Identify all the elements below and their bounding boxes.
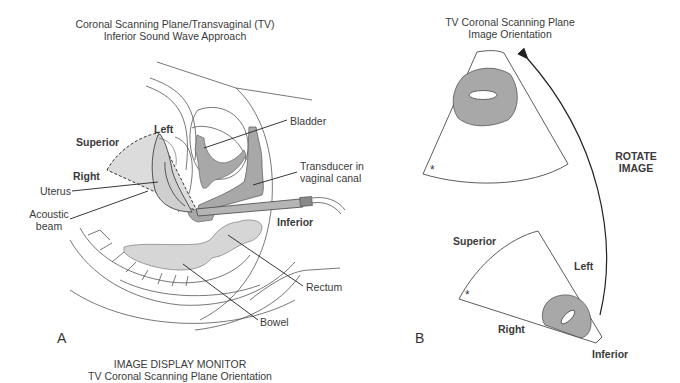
label-uterus: Uterus bbox=[40, 185, 71, 197]
panel-a-title-line2: Inferior Sound Wave Approach bbox=[70, 30, 280, 42]
panel-b-title-line1: TV Coronal Scanning Plane bbox=[440, 16, 580, 28]
panel-b-title-line2: Image Orientation bbox=[440, 28, 580, 40]
panel-a-title: Coronal Scanning Plane/Transvaginal (TV)… bbox=[70, 18, 280, 42]
label-bladder: Bladder bbox=[290, 115, 326, 127]
label-superior-a: Superior bbox=[76, 136, 119, 148]
star-marker-top: * bbox=[430, 164, 435, 176]
rotated-sector-image bbox=[459, 231, 602, 343]
bowel-rectum-shape bbox=[124, 220, 262, 270]
label-inferior-a: Inferior bbox=[277, 216, 313, 228]
label-rectum: Rectum bbox=[306, 281, 342, 293]
label-left-a: Left bbox=[154, 123, 173, 135]
label-acoustic-line1: Acoustic bbox=[28, 208, 70, 220]
diagram-artwork bbox=[0, 0, 680, 383]
label-acoustic-line2: beam bbox=[28, 220, 70, 232]
panel-letter-a: A bbox=[57, 332, 66, 344]
label-transducer: Transducer in vaginal canal bbox=[300, 160, 364, 184]
label-acoustic-beam: Acoustic beam bbox=[28, 208, 70, 232]
label-superior-b: Superior bbox=[453, 235, 496, 247]
rotate-line2: IMAGE bbox=[612, 162, 660, 174]
bladder-shape bbox=[195, 135, 246, 188]
label-bowel: Bowel bbox=[260, 316, 289, 328]
star-marker-bottom: * bbox=[465, 289, 470, 301]
monitor-caption-line2: TV Coronal Scanning Plane Orientation bbox=[80, 370, 280, 382]
label-inferior-b: Inferior bbox=[592, 348, 628, 360]
panel-a-title-line1: Coronal Scanning Plane/Transvaginal (TV) bbox=[70, 18, 280, 30]
label-left-b: Left bbox=[574, 260, 593, 272]
monitor-caption: IMAGE DISPLAY MONITOR TV Coronal Scannin… bbox=[80, 358, 280, 382]
label-right-a: Right bbox=[73, 170, 100, 182]
rotate-image-label: ROTATE IMAGE bbox=[612, 150, 660, 174]
pelvis-anatomy bbox=[70, 62, 340, 330]
label-right-b: Right bbox=[498, 323, 525, 335]
label-transducer-line1: Transducer in bbox=[300, 160, 364, 172]
rotate-line1: ROTATE bbox=[612, 150, 660, 162]
top-sector-image bbox=[423, 51, 568, 183]
monitor-caption-line1: IMAGE DISPLAY MONITOR bbox=[80, 358, 280, 370]
label-transducer-line2: vaginal canal bbox=[300, 172, 364, 184]
panel-b-title: TV Coronal Scanning Plane Image Orientat… bbox=[440, 16, 580, 40]
panel-letter-b: B bbox=[415, 332, 424, 344]
leader-lines bbox=[70, 120, 303, 320]
